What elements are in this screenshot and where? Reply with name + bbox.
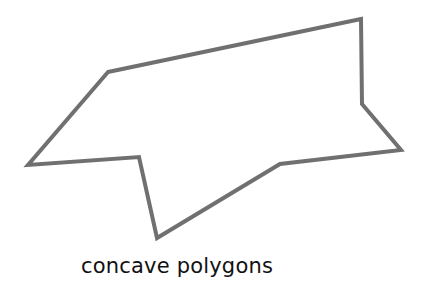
figure-caption: concave polygons [0,254,354,278]
concave-polygon-shape [28,19,401,238]
concave-polygon-diagram [0,0,426,250]
